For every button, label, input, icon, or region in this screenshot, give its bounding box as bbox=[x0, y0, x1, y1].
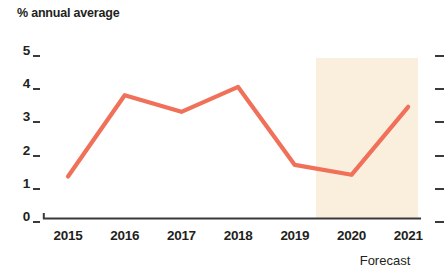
x-tick-label-2017: 2017 bbox=[151, 228, 211, 244]
y-tick-mark-0 bbox=[33, 221, 40, 223]
y-tick-label-3: 3 bbox=[12, 110, 30, 124]
y-tick-mark-2 bbox=[33, 155, 40, 157]
right-tick-mark-4 bbox=[435, 88, 444, 90]
right-tick-mark-5 bbox=[435, 55, 444, 57]
chart-container: % annual average 543210 2015201620172018… bbox=[0, 0, 448, 275]
y-tick-label-0: 0 bbox=[12, 210, 30, 224]
x-tick-label-2019: 2019 bbox=[265, 228, 325, 244]
y-tick-mark-4 bbox=[33, 88, 40, 90]
x-tick-label-2015: 2015 bbox=[38, 228, 98, 244]
y-tick-label-5: 5 bbox=[12, 44, 30, 58]
x-tick-label-2018: 2018 bbox=[208, 228, 268, 244]
forecast-shading-rect bbox=[316, 58, 418, 218]
y-tick-label-4: 4 bbox=[12, 77, 30, 91]
y-tick-label-1: 1 bbox=[12, 177, 30, 191]
right-tick-mark-3 bbox=[435, 121, 444, 123]
right-tick-mark-1 bbox=[435, 188, 444, 190]
y-tick-mark-3 bbox=[33, 121, 40, 123]
x-tick-label-2016: 2016 bbox=[95, 228, 155, 244]
x-tick-label-2020: 2020 bbox=[322, 228, 382, 244]
x-tick-label-2021: 2021 bbox=[378, 228, 438, 244]
y-tick-mark-1 bbox=[33, 188, 40, 190]
forecast-caption: Forecast bbox=[325, 253, 445, 269]
right-tick-mark-2 bbox=[435, 155, 444, 157]
y-tick-mark-5 bbox=[33, 55, 40, 57]
y-tick-label-2: 2 bbox=[12, 144, 30, 158]
right-tick-mark-0 bbox=[435, 221, 444, 223]
